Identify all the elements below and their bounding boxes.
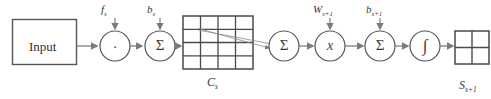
label-f-s-sub: s: [104, 10, 107, 17]
sigma-summation-icon: Σ: [152, 38, 168, 53]
sigma-summation-icon: Σ: [276, 38, 292, 53]
label-b-s-plus-1: bs+1: [366, 4, 382, 18]
label-b-s: bs: [147, 4, 155, 18]
dot-operator-icon: ·: [108, 41, 122, 55]
label-feature-map-s: Ss+1: [459, 79, 477, 94]
input-block-label: Input: [29, 39, 56, 55]
label-f-s: fs: [101, 4, 107, 18]
neural-network-layer-diagram: Input · Σ Σ x Σ ∫ fs bs Ws+1 bs+1 Cs Ss+…: [0, 0, 491, 99]
label-b2-sub: s+1: [372, 10, 383, 17]
label-w-sub: s+1: [322, 10, 333, 17]
label-w-base: W: [313, 3, 322, 15]
label-s-sub: s+1: [465, 85, 477, 94]
sigma-summation-icon: Σ: [372, 38, 388, 53]
feature-map-s: [455, 31, 489, 64]
label-w-s-plus-1: Ws+1: [313, 4, 333, 18]
label-feature-map-c: Cs: [207, 76, 218, 91]
feature-map-c: [183, 16, 253, 69]
label-c-sub: s: [215, 82, 218, 91]
label-c-base: C: [207, 75, 215, 89]
integral-activation-icon: ∫: [418, 37, 432, 54]
label-b-s-sub: s: [153, 10, 156, 17]
multiply-operator-icon: x: [323, 39, 337, 53]
